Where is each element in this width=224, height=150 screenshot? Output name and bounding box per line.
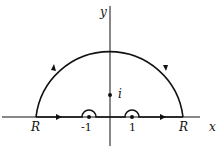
i-label: i bbox=[118, 87, 122, 101]
radius-label-left: R bbox=[30, 120, 40, 134]
x-axis-label: x bbox=[209, 120, 216, 134]
pole-one bbox=[130, 115, 134, 119]
minus-one-label: -1 bbox=[81, 121, 92, 134]
contour-diagram: y x i R R -1 1 bbox=[0, 0, 224, 150]
arrow-icon bbox=[56, 114, 62, 120]
pole-i bbox=[108, 93, 112, 97]
arrow-icon bbox=[160, 114, 166, 120]
y-axis-label: y bbox=[99, 5, 107, 19]
arrow-icon bbox=[51, 64, 56, 71]
arrow-icon bbox=[163, 65, 168, 71]
pole-minus-one bbox=[87, 115, 91, 119]
radius-label-right: R bbox=[178, 120, 188, 134]
one-label: 1 bbox=[129, 121, 136, 134]
